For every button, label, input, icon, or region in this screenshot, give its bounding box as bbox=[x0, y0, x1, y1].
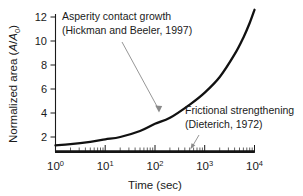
x-tick-exponent-3: 3 bbox=[209, 159, 213, 168]
normalized-area-vs-time-chart: 12 10 8 6 4 2 Normalized area (A/A0) bbox=[0, 0, 303, 196]
x-tick-mantissa-2: 10 bbox=[147, 160, 160, 172]
y-axis-title-a1: A bbox=[7, 44, 19, 53]
x-tick-mantissa-1: 10 bbox=[97, 160, 110, 172]
x-tick-exponent-0: 0 bbox=[60, 159, 64, 168]
y-tick-label-10: 10 bbox=[35, 35, 47, 47]
figure-container: 12 10 8 6 4 2 Normalized area (A/A0) bbox=[0, 0, 303, 196]
y-tick-label-8: 8 bbox=[41, 59, 47, 71]
y-tick-label-2: 2 bbox=[41, 131, 47, 143]
x-tick-exponent-2: 2 bbox=[159, 159, 163, 168]
x-tick-mantissa-3: 10 bbox=[196, 160, 209, 172]
x-tick-mantissa-4: 10 bbox=[246, 160, 259, 172]
x-tick-mantissa-0: 10 bbox=[47, 160, 60, 172]
annotation-frictional-line1: Frictional strengthening bbox=[185, 104, 294, 116]
y-axis-title-prefix: Normalized area ( bbox=[7, 51, 19, 143]
y-axis-title-a2: A bbox=[7, 33, 19, 42]
x-axis-title: Time (sec) bbox=[128, 179, 182, 191]
y-tick-label-12: 12 bbox=[35, 11, 47, 23]
y-tick-label-6: 6 bbox=[41, 83, 47, 95]
annotation-asperity-line1: Asperity contact growth bbox=[62, 10, 171, 22]
x-tick-exponent-4: 4 bbox=[259, 159, 263, 168]
y-axis-title-suffix: ) bbox=[7, 25, 19, 29]
annotation-asperity-line2: (Hickman and Beeler, 1997) bbox=[62, 24, 192, 36]
annotation-frictional-line2: (Dieterich, 1972) bbox=[185, 118, 263, 130]
x-tick-exponent-1: 1 bbox=[110, 159, 114, 168]
y-tick-label-4: 4 bbox=[41, 107, 47, 119]
